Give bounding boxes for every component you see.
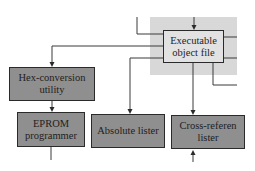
node-label: lister [198,132,219,144]
eprom-programmer-node: EPROM programmer [17,112,85,147]
node-label: Absolute lister [97,125,159,137]
node-label: Executable [170,35,217,47]
hex-conversion-utility-node: Hex-conversion utility [9,67,95,101]
node-label: Hex-conversion [18,72,85,84]
absolute-lister-node: Absolute lister [91,114,165,148]
node-label: EPROM [33,118,69,130]
cross-reference-lister-node: Cross-referen lister [171,115,245,149]
node-label: programmer [25,130,77,142]
node-label: utility [39,84,64,96]
node-label: Cross-referen [179,120,236,132]
executable-object-file-node: Executable object file [163,30,224,63]
node-label: object file [172,47,214,59]
